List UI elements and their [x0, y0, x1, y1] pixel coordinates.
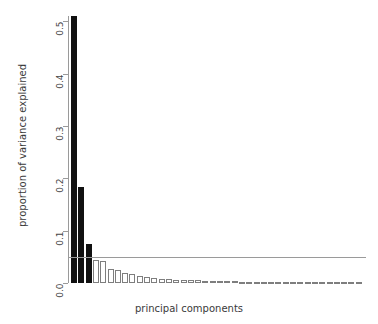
bar-series — [0, 0, 378, 324]
bar-PC23 — [232, 281, 238, 283]
x-axis-title: principal components — [0, 303, 378, 314]
bar-PC12 — [151, 278, 157, 283]
bar-PC4 — [93, 260, 99, 283]
bar-PC8 — [122, 273, 128, 283]
bar-PC18 — [195, 280, 201, 283]
bar-PC9 — [129, 274, 135, 283]
plot-area: 0.00.10.20.30.40.5 proportion of varianc… — [0, 0, 378, 324]
bar-PC5 — [100, 261, 106, 283]
bar-PC7 — [115, 270, 121, 283]
bar-PC19 — [202, 281, 208, 283]
bar-PC39 — [348, 282, 354, 284]
bar-PC33 — [305, 282, 311, 284]
bar-PC25 — [246, 282, 252, 284]
bar-PC34 — [312, 282, 318, 284]
bar-PC31 — [290, 282, 296, 284]
bar-PC21 — [217, 281, 223, 283]
bar-PC26 — [254, 282, 260, 284]
bar-PC36 — [327, 282, 333, 284]
bar-PC27 — [261, 282, 267, 284]
bar-PC38 — [341, 282, 347, 284]
bar-PC11 — [144, 277, 150, 283]
bar-PC32 — [297, 282, 303, 284]
scree-plot: 0.00.10.20.30.40.5 proportion of varianc… — [0, 0, 378, 324]
bar-PC16 — [181, 280, 187, 283]
bar-PC37 — [334, 282, 340, 284]
bar-PC15 — [173, 280, 179, 283]
bar-PC6 — [108, 269, 114, 283]
bar-PC40 — [356, 282, 362, 284]
bar-PC17 — [188, 280, 194, 283]
bar-PC2 — [78, 187, 84, 283]
bar-PC30 — [283, 282, 289, 284]
bar-PC28 — [268, 282, 274, 284]
bar-PC35 — [319, 282, 325, 284]
bar-PC14 — [166, 279, 172, 283]
bar-PC29 — [275, 282, 281, 284]
bar-PC10 — [137, 276, 143, 283]
bar-PC13 — [159, 279, 165, 283]
bar-PC1 — [71, 16, 77, 283]
bar-PC20 — [210, 281, 216, 283]
y-axis-title: proportion of variance explained — [17, 46, 28, 246]
bar-PC3 — [86, 244, 92, 283]
bar-PC24 — [239, 282, 245, 284]
threshold-line-mark — [69, 257, 366, 258]
bar-PC22 — [224, 281, 230, 283]
